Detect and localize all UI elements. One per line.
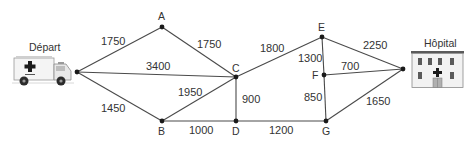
ambulance-icon xyxy=(12,56,74,86)
graph-diagram: 1750 3400 1450 1750 1950 1000 900 1800 1… xyxy=(0,0,472,144)
node-a xyxy=(160,25,165,30)
edge-b-c xyxy=(162,77,236,121)
node-label-b: B xyxy=(158,125,165,137)
weight-g-hospital: 1650 xyxy=(366,95,390,107)
weight-e-hospital: 2250 xyxy=(363,39,387,51)
weight-b-d: 1000 xyxy=(189,124,213,136)
weight-c-d: 900 xyxy=(242,93,260,105)
weight-start-c: 3400 xyxy=(146,60,170,72)
node-start xyxy=(75,70,80,75)
edges xyxy=(77,27,403,121)
weight-f-hospital: 700 xyxy=(341,60,359,72)
node-f xyxy=(322,73,327,78)
edge-g-hospital xyxy=(326,69,403,121)
weight-start-a: 1750 xyxy=(101,35,125,47)
weight-a-c: 1750 xyxy=(197,38,221,50)
weight-d-g: 1200 xyxy=(269,124,293,136)
edge-start-c xyxy=(77,72,236,77)
node-label-a: A xyxy=(158,10,165,22)
weight-f-g: 850 xyxy=(304,91,322,103)
weight-c-e: 1800 xyxy=(260,42,284,54)
start-label: Départ xyxy=(29,41,61,53)
weight-b-c: 1950 xyxy=(178,86,202,98)
node-label-f: F xyxy=(312,69,318,81)
weight-e-f: 1300 xyxy=(298,52,322,64)
node-label-d: D xyxy=(232,125,240,137)
node-label-g: G xyxy=(322,125,330,137)
node-d xyxy=(234,119,239,124)
edge-f-g xyxy=(324,75,326,121)
node-g xyxy=(324,119,329,124)
weight-start-b: 1450 xyxy=(101,102,125,114)
node-e xyxy=(320,35,325,40)
node-label-e: E xyxy=(318,21,325,33)
end-label: Hôpital xyxy=(424,37,457,49)
node-b xyxy=(160,119,165,124)
node-hospital xyxy=(401,67,406,72)
edge-f-hospital xyxy=(324,69,403,75)
node-c xyxy=(234,75,239,80)
node-label-c: C xyxy=(232,62,240,74)
edge-a-c xyxy=(162,27,236,77)
hospital-icon xyxy=(411,51,464,88)
